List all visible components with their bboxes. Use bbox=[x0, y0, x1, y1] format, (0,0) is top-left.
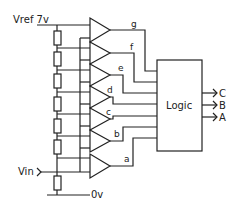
output-wires: g f e d c b a bbox=[106, 19, 157, 166]
output-a-label: A bbox=[219, 112, 226, 123]
output-label-d: d bbox=[107, 85, 113, 95]
output-label-f: f bbox=[130, 42, 134, 52]
comparators bbox=[57, 18, 110, 178]
comparator-g bbox=[90, 18, 110, 42]
comparator-a bbox=[90, 154, 110, 178]
output-label-c: c bbox=[106, 107, 111, 117]
comparator-e bbox=[90, 64, 110, 86]
vref-label: Vref 7v bbox=[13, 14, 49, 25]
resistor-ladder bbox=[54, 25, 61, 195]
flash-adc-diagram: Vref 7v 0v Vin bbox=[0, 0, 240, 219]
logic-outputs: C B A bbox=[202, 88, 226, 123]
comparator-f bbox=[90, 42, 110, 64]
vin-label: Vin bbox=[18, 166, 34, 177]
comparator-b bbox=[90, 130, 110, 152]
output-b-label: B bbox=[219, 100, 226, 111]
resistor-1 bbox=[54, 31, 61, 45]
output-label-g: g bbox=[131, 19, 137, 29]
logic-label: Logic bbox=[166, 100, 192, 111]
output-c-label: C bbox=[219, 88, 226, 99]
resistor-2 bbox=[54, 52, 61, 66]
resistor-6 bbox=[54, 140, 61, 154]
resistor-3 bbox=[54, 74, 61, 88]
output-label-e: e bbox=[118, 63, 124, 73]
resistor-5 bbox=[54, 119, 61, 133]
resistor-7 bbox=[54, 176, 61, 190]
output-label-a: a bbox=[124, 154, 130, 164]
vin-arrow-icon bbox=[37, 168, 41, 176]
output-label-b: b bbox=[114, 129, 120, 139]
ground-label: 0v bbox=[91, 189, 103, 200]
resistor-4 bbox=[54, 97, 61, 111]
